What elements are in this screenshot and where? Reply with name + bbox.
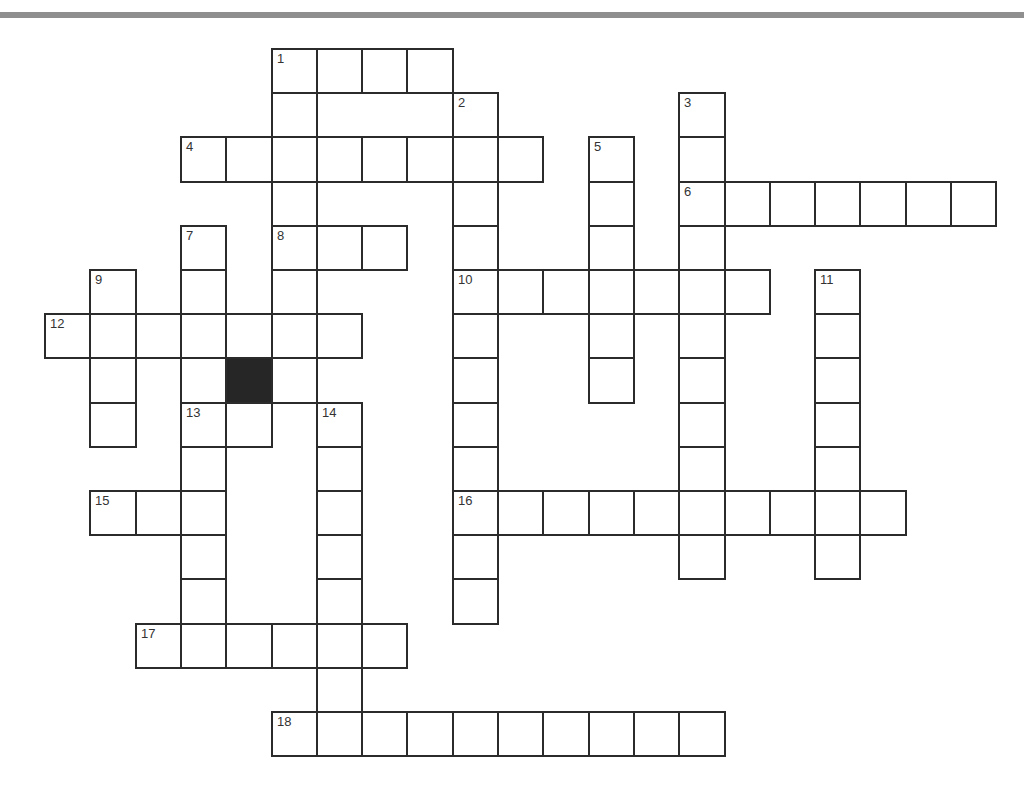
crossword-cell[interactable]: [271, 92, 318, 138]
crossword-cell[interactable]: [633, 711, 680, 757]
crossword-cell[interactable]: [316, 578, 363, 625]
crossword-cell[interactable]: 15: [89, 490, 137, 536]
crossword-cell[interactable]: 7: [180, 225, 227, 271]
crossword-cell[interactable]: [271, 181, 318, 227]
crossword-cell[interactable]: [316, 623, 363, 669]
crossword-cell[interactable]: [180, 446, 227, 492]
crossword-cell[interactable]: [89, 402, 137, 448]
crossword-cell[interactable]: [814, 181, 861, 227]
crossword-cell[interactable]: [678, 136, 726, 183]
crossword-cell[interactable]: 8: [271, 225, 318, 271]
crossword-cell[interactable]: [361, 623, 408, 669]
crossword-cell[interactable]: [361, 711, 408, 757]
crossword-cell[interactable]: 18: [271, 711, 318, 757]
crossword-cell[interactable]: [678, 446, 726, 492]
crossword-cell[interactable]: [452, 578, 499, 625]
crossword-cell[interactable]: [225, 402, 273, 448]
crossword-cell[interactable]: 5: [588, 136, 635, 183]
crossword-cell[interactable]: [859, 181, 907, 227]
crossword-cell[interactable]: 11: [814, 269, 861, 315]
crossword-cell[interactable]: [406, 136, 454, 183]
crossword-cell[interactable]: 12: [44, 313, 91, 359]
crossword-cell[interactable]: [316, 446, 363, 492]
crossword-cell[interactable]: [497, 490, 544, 536]
crossword-cell[interactable]: [89, 357, 137, 404]
crossword-cell[interactable]: [678, 534, 726, 580]
crossword-cell[interactable]: [316, 490, 363, 536]
crossword-cell[interactable]: [316, 534, 363, 580]
crossword-cell[interactable]: [588, 225, 635, 271]
crossword-cell[interactable]: [542, 269, 590, 315]
crossword-cell[interactable]: [452, 711, 499, 757]
crossword-cell[interactable]: [135, 490, 182, 536]
crossword-cell[interactable]: [225, 313, 273, 359]
crossword-cell[interactable]: [452, 446, 499, 492]
crossword-cell[interactable]: [452, 136, 499, 183]
crossword-cell[interactable]: [316, 136, 363, 183]
crossword-cell[interactable]: [180, 534, 227, 580]
crossword-cell[interactable]: [89, 313, 137, 359]
crossword-cell[interactable]: [542, 490, 590, 536]
crossword-cell[interactable]: [271, 313, 318, 359]
crossword-cell[interactable]: [724, 181, 771, 227]
crossword-cell[interactable]: [452, 225, 499, 271]
crossword-cell[interactable]: [769, 490, 816, 536]
crossword-cell[interactable]: [678, 269, 726, 315]
crossword-cell[interactable]: 9: [89, 269, 137, 315]
crossword-cell[interactable]: [678, 313, 726, 359]
crossword-cell[interactable]: [588, 181, 635, 227]
crossword-cell[interactable]: [180, 357, 227, 404]
crossword-cell[interactable]: [180, 313, 227, 359]
crossword-cell[interactable]: [180, 578, 227, 625]
crossword-cell[interactable]: [316, 48, 363, 94]
crossword-cell[interactable]: 13: [180, 402, 227, 448]
crossword-cell[interactable]: [678, 357, 726, 404]
crossword-cell[interactable]: 1: [271, 48, 318, 94]
crossword-cell[interactable]: 10: [452, 269, 499, 315]
crossword-cell[interactable]: [588, 269, 635, 315]
crossword-cell[interactable]: [316, 313, 363, 359]
crossword-cell[interactable]: [180, 490, 227, 536]
crossword-cell[interactable]: 3: [678, 92, 726, 138]
crossword-cell[interactable]: [271, 623, 318, 669]
crossword-cell[interactable]: [316, 711, 363, 757]
crossword-cell[interactable]: [452, 402, 499, 448]
crossword-cell[interactable]: [316, 667, 363, 713]
crossword-cell[interactable]: [135, 313, 182, 359]
crossword-cell[interactable]: [905, 181, 952, 227]
crossword-cell[interactable]: [588, 711, 635, 757]
crossword-cell[interactable]: [588, 313, 635, 359]
crossword-cell[interactable]: [180, 269, 227, 315]
crossword-cell[interactable]: [452, 181, 499, 227]
crossword-cell[interactable]: [814, 490, 861, 536]
crossword-cell[interactable]: [271, 269, 318, 315]
crossword-cell[interactable]: [724, 269, 771, 315]
crossword-cell[interactable]: [724, 490, 771, 536]
crossword-cell[interactable]: [497, 269, 544, 315]
crossword-cell[interactable]: 4: [180, 136, 227, 183]
crossword-cell[interactable]: [497, 711, 544, 757]
crossword-cell[interactable]: [814, 402, 861, 448]
crossword-cell[interactable]: [814, 313, 861, 359]
crossword-cell[interactable]: 16: [452, 490, 499, 536]
crossword-cell[interactable]: [271, 136, 318, 183]
crossword-cell[interactable]: 14: [316, 402, 363, 448]
crossword-cell[interactable]: [859, 490, 907, 536]
crossword-cell[interactable]: [452, 534, 499, 580]
crossword-cell[interactable]: [316, 225, 363, 271]
crossword-cell[interactable]: [678, 402, 726, 448]
crossword-cell[interactable]: [542, 711, 590, 757]
crossword-cell[interactable]: [361, 136, 408, 183]
crossword-cell[interactable]: [814, 357, 861, 404]
crossword-cell[interactable]: [225, 136, 273, 183]
crossword-cell[interactable]: [497, 136, 544, 183]
crossword-cell[interactable]: [361, 225, 408, 271]
crossword-cell[interactable]: [588, 490, 635, 536]
crossword-cell[interactable]: [633, 269, 680, 315]
crossword-cell[interactable]: [452, 357, 499, 404]
crossword-cell[interactable]: [180, 623, 227, 669]
crossword-cell[interactable]: [814, 446, 861, 492]
crossword-cell[interactable]: [588, 357, 635, 404]
crossword-cell[interactable]: [678, 490, 726, 536]
crossword-cell[interactable]: [361, 48, 408, 94]
